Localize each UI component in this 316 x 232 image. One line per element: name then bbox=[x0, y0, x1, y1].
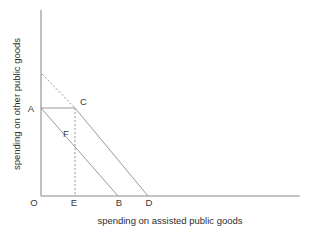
original-budget-line-ab bbox=[41, 108, 118, 196]
point-label-b: B bbox=[116, 197, 122, 208]
point-label-c: C bbox=[80, 96, 87, 107]
subsidised-budget-line-dashed-extension bbox=[42, 74, 75, 108]
point-label-o: O bbox=[30, 197, 37, 208]
point-label-e: E bbox=[71, 197, 77, 208]
x-axis-title: spending on assisted public goods bbox=[97, 215, 242, 226]
subsidised-budget-line-cd bbox=[75, 108, 148, 196]
point-label-a: A bbox=[28, 103, 35, 114]
budget-constraint-chart: A C F O E B D spending on assisted publi… bbox=[0, 0, 316, 232]
point-label-d: D bbox=[146, 197, 153, 208]
point-label-f: F bbox=[63, 128, 69, 139]
y-axis-title: spending on other public goods bbox=[11, 38, 22, 170]
economics-budget-line-figure: A C F O E B D spending on assisted publi… bbox=[0, 0, 316, 232]
